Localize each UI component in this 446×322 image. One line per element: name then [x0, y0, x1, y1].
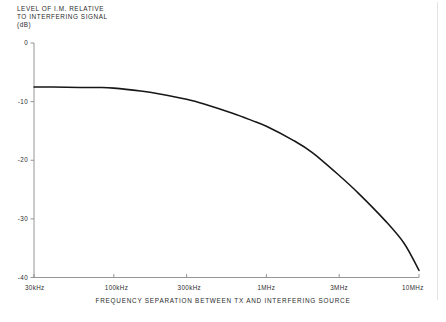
x-tick-label: 10MHz — [402, 284, 424, 291]
x-tick-label: 300kHz — [178, 284, 201, 291]
y-tick-label: -40 — [6, 274, 28, 281]
x-tick-label: 30kHz — [25, 284, 45, 291]
y-tick-label: -10 — [6, 98, 28, 105]
x-axis-title: FREQUENCY SEPARATION BETWEEN TX AND INTE… — [0, 297, 446, 304]
y-tick-label: -30 — [6, 215, 28, 222]
data-curve — [34, 87, 419, 271]
scan-artifact-text — [2, 313, 302, 318]
x-axis-ticks — [34, 274, 419, 278]
plot-area — [0, 0, 446, 322]
x-tick-label: 100kHz — [105, 284, 128, 291]
figure-intermodulation-chart: LEVEL OF I.M. RELATIVE TO INTERFERING SI… — [0, 0, 446, 322]
y-axis-ticks — [31, 43, 35, 278]
y-tick-label: -20 — [6, 156, 28, 163]
x-tick-label: 3MHz — [330, 284, 348, 291]
y-tick-label: 0 — [6, 39, 28, 46]
x-tick-label: 1MHz — [257, 284, 275, 291]
